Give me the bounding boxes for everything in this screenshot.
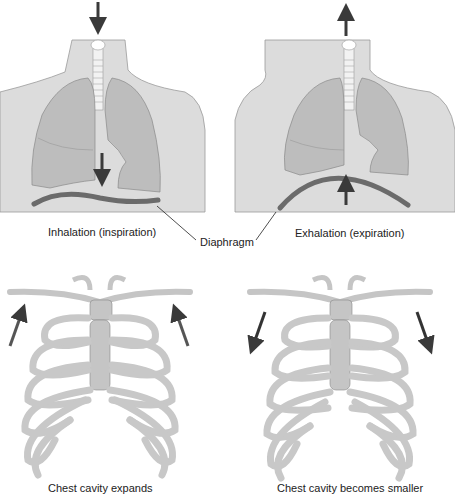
chest-smaller-label: Chest cavity becomes smaller (277, 482, 423, 494)
ribcage-expanding (10, 278, 190, 475)
inhalation-label: Inhalation (inspiration) (48, 226, 156, 238)
diaphragm-leader-right (256, 212, 276, 240)
exhalation-torso (235, 12, 455, 212)
ribcage-contracting (250, 278, 430, 478)
chest-expands-label: Chest cavity expands (48, 482, 153, 494)
diaphragm-label: Diaphragm (200, 236, 254, 248)
exhalation-label: Exhalation (expiration) (295, 227, 404, 239)
inhalation-torso (0, 2, 205, 212)
